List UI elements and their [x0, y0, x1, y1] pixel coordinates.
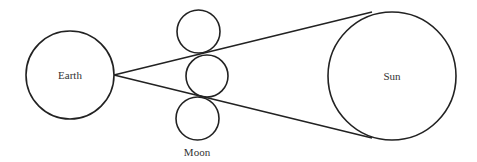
moon-circle-top	[177, 10, 220, 53]
eclipse-diagram: Earth Moon Sun	[0, 0, 477, 162]
moon-label: Moon	[184, 146, 211, 158]
moon-circle-middle	[186, 55, 228, 97]
moon-circle-bottom	[176, 97, 219, 140]
upper-sightline	[114, 12, 372, 75]
sun-label: Sun	[383, 70, 401, 82]
lower-sightline	[114, 75, 372, 138]
earth-label: Earth	[58, 69, 82, 81]
